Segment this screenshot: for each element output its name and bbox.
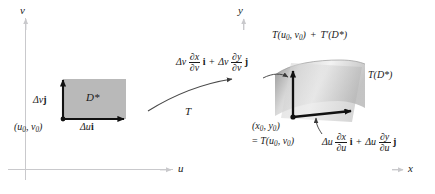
image-u-vector-label: Δu ∂x∂u i + Δu ∂y∂u j [322, 132, 396, 154]
partial-y-partial-v-fraction: ∂y∂v [231, 52, 242, 74]
partial-x-partial-v-fraction: ∂x∂v [189, 52, 200, 74]
diagram-vector-layer [0, 0, 435, 194]
v-axis-label: v [20, 5, 25, 16]
partial-y-partial-u-fraction: ∂y∂u [379, 132, 391, 154]
region-d-star-text: D* [86, 91, 99, 103]
corner-point-dot [61, 117, 66, 122]
image-v-vector-label: Δv ∂x∂v i + Δv ∂y∂v j [176, 52, 248, 74]
base-point-line-1: (x0, y0) [252, 119, 294, 134]
u-axis-label: u [178, 163, 184, 174]
base-point-line-2: = T(u0, v0) [252, 134, 294, 149]
base-point-label: (x0, y0) = T(u0, v0) [252, 119, 294, 150]
x-axis-label: x [408, 163, 413, 174]
delta-v-vector-label: Δvj [33, 95, 47, 105]
change-of-variables-diagram: v u D* (u0, v0) Δvj Δui T y x T(u0, v0) … [0, 0, 435, 194]
region-d-star-label: D* [86, 92, 99, 103]
tangent-plane-label: T(u0, v0) + T′(D*) [272, 30, 347, 42]
image-region-label: T(D*) [368, 70, 392, 80]
partial-x-partial-u-fraction: ∂x∂u [335, 132, 347, 154]
corner-point-label: (u0, v0) [14, 122, 42, 134]
image-region-text: T(D*) [368, 69, 392, 80]
transformation-label: T [185, 106, 191, 117]
y-axis-label: y [238, 5, 243, 16]
delta-u-vector-label: Δui [80, 122, 94, 132]
